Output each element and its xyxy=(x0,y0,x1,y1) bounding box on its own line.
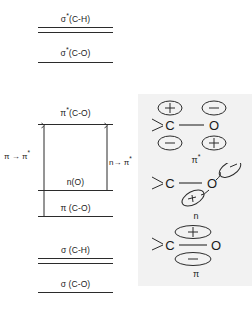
orbital-caption-pi: π xyxy=(146,269,246,279)
transition-label-pi-to-pi-star: π → π* xyxy=(4,152,30,161)
svg-text:O: O xyxy=(211,238,221,253)
orbital-picture-n: C O xyxy=(146,163,246,213)
mo-energy-diagram: σ*(C-H) σ*(C-O) π*(C-O) n(O) π (C-O) σ (… xyxy=(0,0,252,319)
svg-text:O: O xyxy=(209,118,219,133)
svg-text:C: C xyxy=(165,238,174,253)
svg-text:C: C xyxy=(165,176,174,191)
svg-text:O: O xyxy=(207,176,217,191)
orbital-picture-pi-star: C O xyxy=(146,98,246,154)
orbital-picture-pi: C O xyxy=(146,222,246,270)
orbital-caption-n: n xyxy=(146,211,246,221)
transition-label-n-to-pi-star: n→ π* xyxy=(109,158,132,167)
svg-text:C: C xyxy=(165,118,174,133)
